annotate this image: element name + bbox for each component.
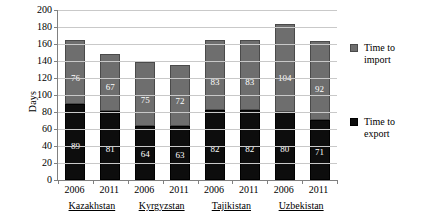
data-label-import: 92 (310, 85, 330, 94)
gridline-120 (58, 78, 337, 79)
legend-label-import-line2: import (364, 54, 391, 65)
bar-segment-import[interactable] (310, 41, 330, 119)
y-tickmark-180 (54, 27, 58, 28)
y-tick-label-100: 100 (26, 90, 52, 100)
bar-segment-import[interactable] (135, 62, 155, 126)
legend-label-export-line2: export (364, 128, 390, 139)
y-tick-label-0: 0 (26, 175, 52, 185)
y-tickmark-200 (54, 10, 58, 11)
data-label-import: 83 (240, 78, 260, 87)
gridline-100 (58, 95, 337, 96)
x-axis-tick-labels: 20062011200620112006201120062011 (57, 184, 336, 198)
y-axis-tick-labels: 200180160140120100806040200 (26, 10, 52, 180)
y-tickmark-80 (54, 112, 58, 113)
legend-label-export-line1: Time to (364, 116, 395, 127)
legend-swatch-export-icon (350, 118, 358, 126)
y-tick-label-200: 200 (26, 5, 52, 15)
data-label-export: 63 (170, 151, 190, 160)
y-tickmark-40 (54, 146, 58, 147)
gridline-160 (58, 44, 337, 45)
legend-label-export: Time to export (364, 116, 424, 140)
legend-swatch-import-icon (350, 44, 358, 52)
bar-kazakhstan-2011[interactable]: 8167 (100, 54, 120, 180)
y-tick-label-140: 140 (26, 56, 52, 66)
stacked-bar-chart: Days 200180160140120100806040200 8976816… (0, 0, 435, 223)
plot-area: 897681676475637282838283801047192 (57, 10, 337, 181)
data-label-export: 71 (310, 148, 330, 157)
x-tick-label-7: 2011 (297, 184, 341, 195)
y-tickmark-100 (54, 95, 58, 96)
legend-label-import-line1: Time to (364, 42, 395, 53)
x-axis-group-labels: KazakhstanKyrgyzstanTajikistanUzbekistan (57, 200, 336, 216)
group-label-uzbekistan: Uzbekistan (256, 200, 346, 212)
legend-label-import: Time to import (364, 42, 424, 66)
y-tick-label-180: 180 (26, 22, 52, 32)
legend-item-export: Time to export (350, 116, 432, 140)
y-tick-label-120: 120 (26, 73, 52, 83)
bar-segment-import[interactable] (275, 24, 295, 112)
bar-segment-import[interactable] (205, 40, 225, 111)
gridline-180 (58, 27, 337, 28)
legend-item-import: Time to import (350, 42, 432, 66)
y-tick-label-160: 160 (26, 39, 52, 49)
y-tick-label-80: 80 (26, 107, 52, 117)
bar-uzbekistan-2006[interactable]: 80104 (275, 24, 295, 180)
data-label-export: 64 (135, 150, 155, 159)
y-tickmark-60 (54, 129, 58, 130)
y-tickmark-140 (54, 61, 58, 62)
y-tickmark-160 (54, 44, 58, 45)
data-label-import: 67 (100, 83, 120, 92)
gridline-60 (58, 129, 337, 130)
gridline-80 (58, 112, 337, 113)
bar-segment-import[interactable] (240, 40, 260, 111)
data-label-import: 83 (205, 78, 225, 87)
y-tick-label-60: 60 (26, 124, 52, 134)
gridline-140 (58, 61, 337, 62)
y-tickmark-20 (54, 163, 58, 164)
y-tick-label-40: 40 (26, 141, 52, 151)
gridline-40 (58, 146, 337, 147)
gridline-20 (58, 163, 337, 164)
bar-uzbekistan-2011[interactable]: 7192 (310, 41, 330, 180)
y-tickmark-120 (54, 78, 58, 79)
gridline-200 (58, 10, 337, 11)
data-label-import: 72 (170, 97, 190, 106)
y-tick-label-20: 20 (26, 158, 52, 168)
data-label-import: 75 (135, 96, 155, 105)
